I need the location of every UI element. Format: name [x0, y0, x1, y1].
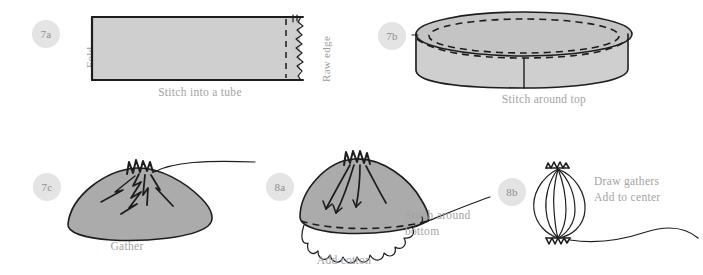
fabric-cylinder	[412, 8, 672, 103]
caption-7a: Stitch into a tube	[158, 86, 242, 98]
caption-8a: Add cotton	[317, 254, 371, 266]
panel-7a: 7a Fold Raw edge Stitch into a tube	[0, 0, 350, 130]
step-badge-7a: 7a	[32, 20, 60, 48]
gathered-ball-8b	[526, 152, 703, 267]
caption-8b-line1: Draw gathers	[594, 175, 659, 187]
panel-8a: 8a Add cotton Stitch around	[240, 140, 480, 275]
panel-8b: 8b Draw gathers Add to center	[470, 140, 697, 275]
panel-7c: 7c Gather	[0, 140, 250, 275]
caption-8a-side-line1: Stitch around	[405, 209, 471, 221]
step-badge-8b: 8b	[498, 178, 526, 206]
caption-8b-line2: Add to center	[594, 191, 661, 203]
caption-8a-side-line2: bottom	[405, 225, 439, 237]
caption-7c: Gather	[110, 240, 143, 252]
step-badge-7b: 7b	[378, 22, 406, 50]
caption-7b: Stitch around top	[502, 93, 586, 105]
panel-7b: 7b Stitch around top	[350, 0, 697, 130]
caption-8b: Draw gathers Add to center	[594, 173, 694, 205]
